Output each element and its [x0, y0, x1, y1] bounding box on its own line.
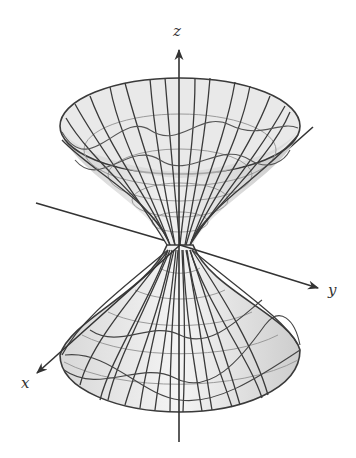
x-axis-label: x — [21, 376, 29, 391]
hyperboloid-figure — [0, 0, 356, 458]
top-rim — [60, 78, 300, 174]
lower-sheet — [60, 245, 300, 412]
y-axis-label: y — [328, 283, 336, 298]
z-axis-label: z — [173, 24, 181, 39]
